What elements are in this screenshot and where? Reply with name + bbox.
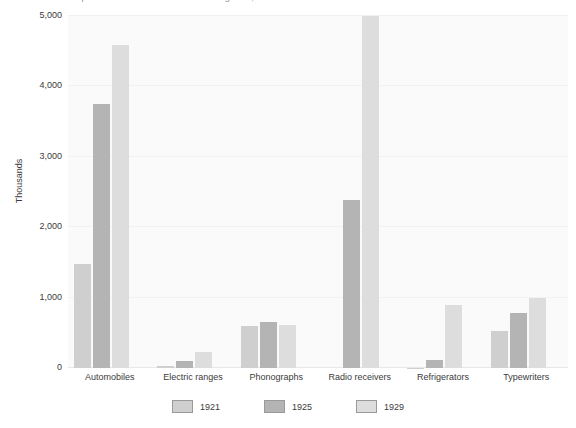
y-tick-label: 3,000: [16, 151, 62, 161]
bar[interactable]: [112, 45, 129, 368]
bar-chart: U.S. production of selected consumer goo…: [0, 0, 576, 428]
bar[interactable]: [362, 16, 379, 368]
legend-item[interactable]: 1921: [172, 400, 220, 413]
bar[interactable]: [491, 331, 508, 368]
bar[interactable]: [195, 352, 212, 368]
bar-group: [401, 16, 484, 368]
bar[interactable]: [260, 322, 277, 368]
bar-group: [235, 16, 318, 368]
bar-group: [318, 16, 401, 368]
x-tick-label: Automobiles: [68, 372, 151, 382]
legend-swatch: [356, 400, 377, 413]
bar[interactable]: [176, 361, 193, 368]
chart-legend: 192119251929: [0, 400, 576, 413]
legend-label: 1925: [292, 402, 312, 412]
bar[interactable]: [157, 366, 174, 368]
bar[interactable]: [93, 104, 110, 368]
plot-area: [68, 16, 568, 368]
bar-group: [68, 16, 151, 368]
bar[interactable]: [426, 360, 443, 368]
x-tick-label: Radio receivers: [318, 372, 401, 382]
legend-swatch: [264, 400, 285, 413]
x-tick-label: Typewriters: [485, 372, 568, 382]
x-tick-label: Electric ranges: [151, 372, 234, 382]
legend-item[interactable]: 1925: [264, 400, 312, 413]
bar[interactable]: [74, 264, 91, 368]
bar[interactable]: [445, 305, 462, 368]
bar-group: [485, 16, 568, 368]
y-tick-label: 2,000: [16, 221, 62, 231]
chart-title: U.S. production of selected consumer goo…: [60, 0, 500, 3]
bar[interactable]: [510, 313, 527, 368]
x-tick-label: Refrigerators: [401, 372, 484, 382]
legend-swatch: [172, 400, 193, 413]
bar-group: [151, 16, 234, 368]
y-tick-label: 0: [16, 362, 62, 372]
legend-label: 1929: [384, 402, 404, 412]
y-tick-label: 5,000: [16, 10, 62, 20]
bar[interactable]: [343, 200, 360, 368]
legend-item[interactable]: 1929: [356, 400, 404, 413]
legend-label: 1921: [200, 402, 220, 412]
y-axis-tick-labels: 01,0002,0003,0004,0005,000: [16, 0, 62, 428]
bar[interactable]: [279, 325, 296, 368]
y-tick-label: 4,000: [16, 80, 62, 90]
bar[interactable]: [529, 298, 546, 368]
y-tick-label: 1,000: [16, 292, 62, 302]
bar[interactable]: [241, 326, 258, 368]
x-tick-label: Phonographs: [235, 372, 318, 382]
